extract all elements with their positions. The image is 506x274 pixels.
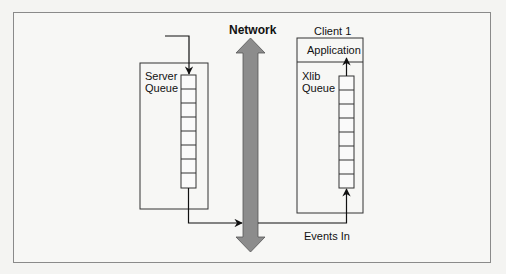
network-arrow [236,38,265,252]
server-queue [181,75,196,188]
xlib-label-line1: Xlib [302,70,320,82]
client-title: Client 1 [314,25,351,37]
request-in-arrow [165,36,189,74]
server-to-network-arrow [189,188,243,223]
server-label-line1: Server [145,70,177,82]
xlib-label-line2: Queue [302,82,335,94]
diagram-canvas [0,0,506,274]
events-in-label: Events In [304,230,350,242]
events-in-arrow [258,189,347,223]
xlib-queue [339,76,354,188]
application-label: Application [307,44,361,56]
server-label-line2: Queue [145,82,178,94]
network-label: Network [229,24,276,36]
